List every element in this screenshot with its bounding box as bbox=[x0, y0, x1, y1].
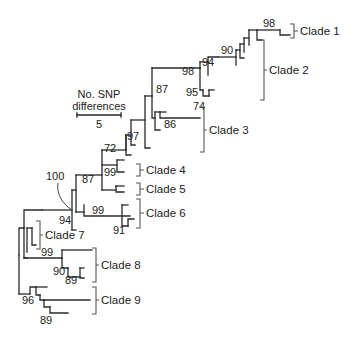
bootstrap-96: 96 bbox=[22, 294, 34, 306]
clade1-bracket bbox=[290, 24, 298, 38]
phylogenetic-tree: No. SNP differences 5 bbox=[0, 0, 358, 338]
node-95 bbox=[200, 68, 203, 90]
node-87b bbox=[145, 96, 150, 148]
bootstrap-100: 100 bbox=[46, 170, 64, 182]
clade5-node bbox=[116, 186, 124, 192]
clade2-label: Clade 2 bbox=[269, 64, 309, 76]
bootstrap-91: 91 bbox=[113, 224, 125, 236]
clade8-tips bbox=[80, 268, 84, 278]
node-74 bbox=[203, 90, 209, 96]
bootstrap-90: 90 bbox=[221, 44, 233, 56]
bootstrap-90-clade8: 90 bbox=[53, 265, 65, 277]
scale-bar-title-line1: No. SNP bbox=[78, 88, 121, 100]
bootstrap-95: 95 bbox=[186, 86, 198, 98]
clade3-label: Clade 3 bbox=[209, 124, 249, 136]
bootstrap-94: 94 bbox=[202, 56, 214, 68]
clade7-bracket bbox=[36, 221, 43, 249]
bootstrap-98-clade1: 98 bbox=[263, 17, 275, 29]
bootstrap-72: 72 bbox=[104, 142, 116, 154]
clade9-v bbox=[36, 287, 40, 295]
clade1-label: Clade 1 bbox=[300, 25, 340, 37]
clade8-bracket bbox=[92, 248, 99, 282]
clade9-tip bbox=[50, 307, 68, 313]
node-b bbox=[24, 210, 42, 228]
scale-bar-title-line2: differences bbox=[72, 100, 126, 112]
clade6-bracket bbox=[136, 199, 144, 228]
scale-bar: No. SNP differences 5 bbox=[72, 88, 126, 130]
clade9-96 bbox=[30, 287, 36, 294]
node-86 bbox=[155, 112, 160, 130]
clade4-label: Clade 4 bbox=[146, 164, 186, 176]
clade4-bracket bbox=[136, 164, 144, 176]
bootstrap-74: 74 bbox=[193, 100, 205, 112]
bootstrap-98: 98 bbox=[182, 65, 194, 77]
bootstrap-87b: 87 bbox=[82, 173, 94, 185]
root-upper bbox=[19, 228, 24, 255]
clade5-bracket bbox=[136, 183, 144, 195]
clade7-label: Clade 7 bbox=[45, 229, 85, 241]
clade9-n2 bbox=[40, 295, 44, 300]
clade2-bracket bbox=[260, 40, 267, 100]
clade6-node91 bbox=[128, 219, 134, 226]
bootstrap-97: 97 bbox=[127, 130, 139, 142]
bootstrap-89-clade9: 89 bbox=[40, 314, 52, 326]
bootstrap-87: 87 bbox=[156, 83, 168, 95]
bootstrap-89-clade8: 89 bbox=[65, 274, 77, 286]
clade9-bracket bbox=[92, 287, 99, 314]
bootstrap-99-clade6: 99 bbox=[92, 204, 104, 216]
clade1-node bbox=[280, 30, 290, 35]
clade9-89 bbox=[44, 300, 50, 307]
scale-bar-value: 5 bbox=[96, 118, 102, 130]
clade9-label: Clade 9 bbox=[101, 294, 141, 306]
clade4-node bbox=[117, 160, 124, 172]
bootstrap-94: 94 bbox=[59, 214, 71, 226]
bootstrap-99-clade7: 99 bbox=[41, 246, 53, 258]
clade6-label: Clade 6 bbox=[146, 207, 186, 219]
stair-5 bbox=[257, 30, 262, 40]
clade5-label: Clade 5 bbox=[146, 183, 186, 195]
bootstrap-99-clade4: 99 bbox=[104, 166, 116, 178]
clade3-bracket bbox=[200, 107, 207, 152]
clade7-node bbox=[32, 228, 36, 245]
bootstrap-86: 86 bbox=[164, 118, 176, 130]
pointer-arc-100 bbox=[58, 183, 72, 210]
clade8-label: Clade 8 bbox=[101, 259, 141, 271]
